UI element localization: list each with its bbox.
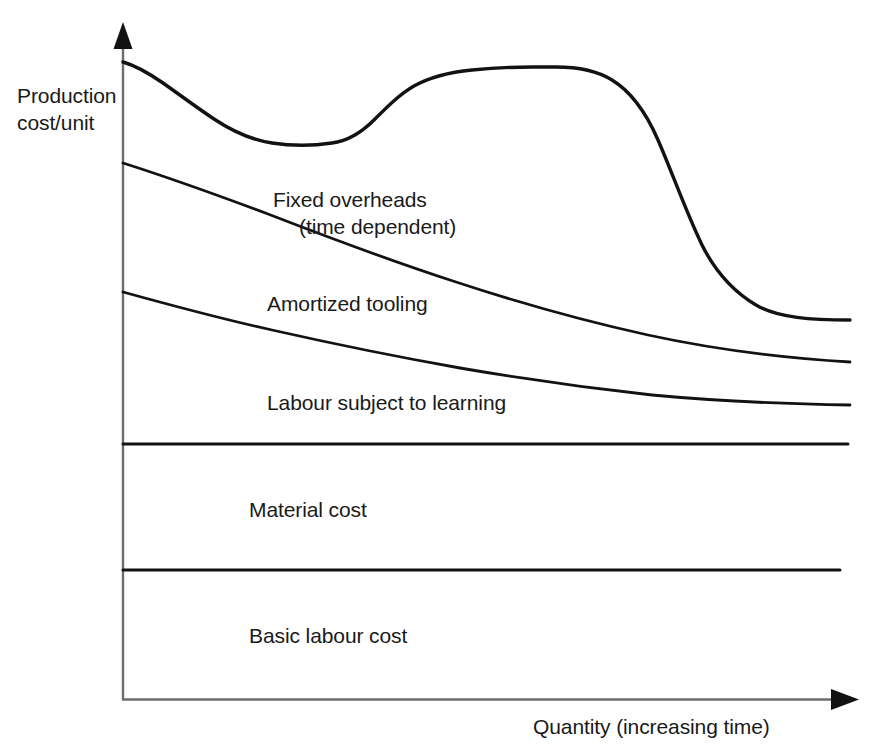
x-axis-label: Quantity (increasing time) <box>533 713 770 740</box>
band-label-material-cost: Material cost <box>249 496 367 523</box>
band-label-basic-labour-cost: Basic labour cost <box>249 622 407 649</box>
y-axis-label-line1: Production <box>17 84 116 107</box>
cost-band-boundaries <box>123 62 850 570</box>
band-label-fixed-overheads-line2: (time dependent) <box>273 213 456 240</box>
chart-canvas <box>0 0 878 755</box>
x-axis-arrow-icon <box>831 689 859 710</box>
curve-total-production-cost <box>123 62 850 320</box>
band-label-amortized-tooling: Amortized tooling <box>267 290 428 317</box>
production-cost-chart: Productioncost/unit Fixed overheads(time… <box>0 0 878 755</box>
band-label-labour-subject-to-learning: Labour subject to learning <box>267 389 506 416</box>
y-axis-label: Productioncost/unit <box>17 82 116 136</box>
curve-amortized-tooling-top <box>123 163 850 362</box>
y-axis-arrow-icon <box>114 22 133 49</box>
y-axis-label-line2: cost/unit <box>17 111 94 134</box>
band-label-fixed-overheads-line1: Fixed overheads <box>273 188 427 211</box>
band-label-fixed-overheads: Fixed overheads(time dependent) <box>273 186 456 240</box>
